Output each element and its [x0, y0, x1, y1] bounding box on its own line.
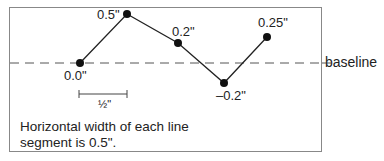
scale-label: ½" [98, 97, 111, 111]
point-4 [263, 33, 271, 41]
point-1 [123, 10, 131, 18]
point-2 [174, 39, 182, 47]
caption-line-1: Horizontal width of each line [20, 119, 300, 135]
caption-line-2: segment is 0.5". [20, 135, 300, 151]
point-label-0: 0.0" [64, 69, 87, 83]
caption: Horizontal width of each line segment is… [20, 119, 300, 151]
point-0 [76, 59, 84, 67]
point-label-2: 0.2" [172, 25, 195, 39]
baseline-label: baseline [325, 55, 377, 69]
point-3 [220, 79, 228, 87]
point-label-1: 0.5" [97, 8, 120, 22]
point-label-4: 0.25" [258, 16, 288, 30]
point-label-3: –0.2" [216, 89, 246, 103]
